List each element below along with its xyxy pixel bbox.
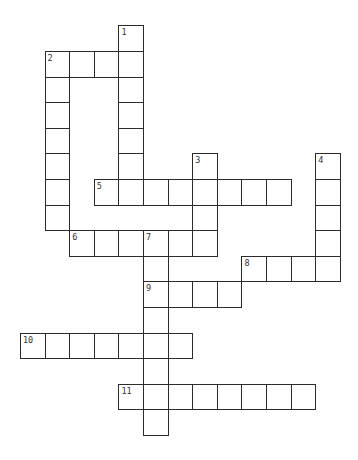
- crossword-cell[interactable]: [118, 102, 144, 129]
- crossword-cell[interactable]: [217, 384, 243, 411]
- crossword-cell[interactable]: 6: [69, 230, 95, 257]
- crossword-cell[interactable]: [291, 384, 317, 411]
- crossword-cell[interactable]: [168, 230, 194, 257]
- crossword-cell[interactable]: 9: [143, 281, 169, 308]
- crossword-cell[interactable]: [45, 153, 71, 180]
- crossword-cell[interactable]: [143, 384, 169, 411]
- crossword-cell[interactable]: [143, 409, 169, 436]
- crossword-cell[interactable]: 3: [192, 153, 218, 180]
- crossword-cell[interactable]: [192, 230, 218, 257]
- crossword-cell[interactable]: [217, 179, 243, 206]
- crossword-cell[interactable]: [143, 333, 169, 360]
- clue-number: 3: [195, 155, 200, 165]
- crossword-cell[interactable]: [143, 358, 169, 385]
- crossword-cell[interactable]: [217, 281, 243, 308]
- clue-number: 1: [121, 27, 126, 37]
- crossword-cell[interactable]: [118, 230, 144, 257]
- crossword-cell[interactable]: [315, 256, 341, 283]
- clue-number: 4: [318, 155, 323, 165]
- crossword-cell[interactable]: 10: [20, 333, 46, 360]
- clue-number: 10: [23, 335, 33, 345]
- crossword-cell[interactable]: 1: [118, 25, 144, 52]
- crossword-cell[interactable]: [69, 333, 95, 360]
- crossword-cell[interactable]: [315, 179, 341, 206]
- clue-number: 9: [146, 283, 151, 293]
- crossword-cell[interactable]: [143, 307, 169, 334]
- crossword-cell[interactable]: [192, 205, 218, 232]
- crossword-cell[interactable]: [192, 281, 218, 308]
- crossword-cell[interactable]: [266, 256, 292, 283]
- crossword-cell[interactable]: [118, 153, 144, 180]
- crossword-cell[interactable]: [118, 179, 144, 206]
- crossword-cell[interactable]: 8: [241, 256, 267, 283]
- crossword-cell[interactable]: [45, 333, 71, 360]
- crossword-cell[interactable]: [45, 128, 71, 155]
- crossword-cell[interactable]: [94, 51, 120, 78]
- crossword-grid: 1234567981011: [0, 0, 358, 460]
- crossword-cell[interactable]: [168, 281, 194, 308]
- crossword-cell[interactable]: 11: [118, 384, 144, 411]
- crossword-cell[interactable]: [69, 51, 95, 78]
- crossword-cell[interactable]: [45, 102, 71, 129]
- clue-number: 8: [244, 258, 249, 268]
- clue-number: 2: [48, 53, 53, 63]
- crossword-cell[interactable]: [168, 384, 194, 411]
- crossword-cell[interactable]: [266, 179, 292, 206]
- crossword-cell[interactable]: [315, 205, 341, 232]
- crossword-cell[interactable]: [143, 179, 169, 206]
- clue-number: 5: [97, 181, 102, 191]
- clue-number: 7: [146, 232, 151, 242]
- crossword-cell[interactable]: [241, 384, 267, 411]
- crossword-cell[interactable]: [241, 179, 267, 206]
- crossword-cell[interactable]: [118, 51, 144, 78]
- crossword-cell[interactable]: [45, 179, 71, 206]
- clue-number: 6: [72, 232, 77, 242]
- crossword-cell[interactable]: [266, 384, 292, 411]
- crossword-cell[interactable]: 7: [143, 230, 169, 257]
- crossword-cell[interactable]: 4: [315, 153, 341, 180]
- crossword-cell[interactable]: [118, 333, 144, 360]
- crossword-cell[interactable]: [45, 205, 71, 232]
- crossword-cell[interactable]: [94, 333, 120, 360]
- crossword-cell[interactable]: [45, 77, 71, 104]
- crossword-cell[interactable]: [291, 256, 317, 283]
- crossword-cell[interactable]: [192, 179, 218, 206]
- crossword-cell[interactable]: [94, 230, 120, 257]
- crossword-cell[interactable]: 2: [45, 51, 71, 78]
- crossword-cell[interactable]: [168, 333, 194, 360]
- crossword-cell[interactable]: 5: [94, 179, 120, 206]
- crossword-cell[interactable]: [315, 230, 341, 257]
- crossword-cell[interactable]: [168, 179, 194, 206]
- crossword-cell[interactable]: [143, 256, 169, 283]
- crossword-cell[interactable]: [118, 128, 144, 155]
- clue-number: 11: [121, 386, 131, 396]
- crossword-cell[interactable]: [118, 77, 144, 104]
- crossword-cell[interactable]: [192, 384, 218, 411]
